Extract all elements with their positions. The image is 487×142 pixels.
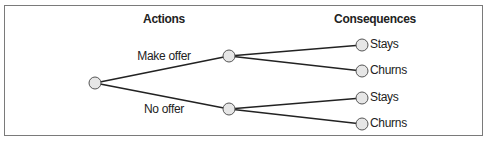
edge-offer-churns <box>229 56 362 71</box>
outcome-node-churns <box>356 118 368 130</box>
outcome-label-stays: Stays <box>370 90 399 104</box>
actions-header: Actions <box>143 12 185 26</box>
action-node-make-offer <box>223 50 235 62</box>
outcome-node-stays <box>356 92 368 104</box>
outcome-label-churns: Churns <box>370 116 407 130</box>
outcome-label-churns: Churns <box>370 63 407 77</box>
action-node-no-offer <box>223 103 235 115</box>
action-label-make-offer: Make offer <box>137 49 190 63</box>
consequences-header: Consequences <box>334 12 416 26</box>
edge-nooffer-stays <box>229 98 362 109</box>
root-node <box>89 77 101 89</box>
outcome-node-stays <box>356 39 368 51</box>
edge-offer-stays <box>229 45 362 56</box>
outcome-node-churns <box>356 65 368 77</box>
outcome-label-stays: Stays <box>370 37 399 51</box>
edge-nooffer-churns <box>229 109 362 124</box>
action-label-no-offer: No offer <box>144 102 184 116</box>
